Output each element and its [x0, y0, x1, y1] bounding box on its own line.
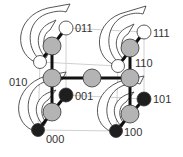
node-top-left-center — [43, 37, 61, 55]
label-101: 101 — [153, 93, 171, 105]
node-top-right-center — [121, 39, 139, 57]
label-011: 011 — [75, 22, 93, 34]
node-mid-left — [43, 69, 61, 87]
node-mid-right — [121, 69, 139, 87]
label-110: 110 — [135, 57, 153, 69]
node-001 — [59, 88, 73, 102]
node-101 — [137, 92, 151, 106]
node-010 — [34, 56, 47, 69]
node-011 — [59, 21, 73, 35]
cube-diagram: 011 111 010 110 001 101 000 100 — [0, 0, 183, 157]
node-bottom-right-center — [121, 105, 139, 123]
node-100 — [110, 125, 123, 138]
node-111 — [137, 25, 151, 39]
node-bottom-left-center — [43, 103, 61, 121]
label-010: 010 — [9, 76, 27, 88]
node-000 — [32, 124, 45, 137]
label-000: 000 — [46, 133, 64, 145]
label-100: 100 — [124, 126, 142, 138]
label-111: 111 — [153, 27, 170, 39]
node-mid-center — [83, 69, 101, 87]
nodes — [32, 21, 152, 138]
node-110 — [112, 60, 125, 73]
label-001: 001 — [75, 90, 93, 102]
